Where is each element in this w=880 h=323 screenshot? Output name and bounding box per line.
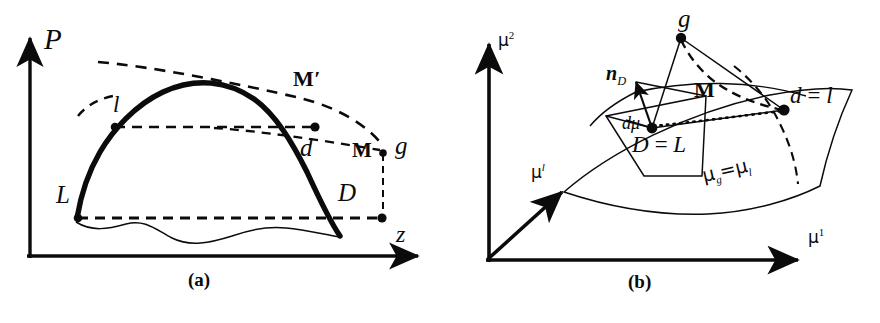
link-D-to-dl: [652, 110, 784, 128]
axis-label-mu1-base: μ: [808, 227, 819, 247]
link-g-to-D: [652, 38, 681, 128]
axis-label-mu-l-base: μ: [531, 162, 542, 182]
point-marker-d: [310, 122, 319, 131]
axis-label-mu1-sup: 1: [819, 226, 825, 238]
axis-label-mu2: μ2: [498, 30, 514, 49]
point-label-l: l: [113, 93, 119, 116]
axis-label-z: z: [396, 222, 405, 246]
panel-b: μ2 μ1 μl g D = L d = l nD dμ M μg=μl (b): [440, 0, 880, 323]
dashed-arc-near-l: [78, 96, 113, 116]
panel-a: P z L l d D g M′ M (a): [0, 0, 440, 323]
axis-label-mu2-sup: 2: [509, 29, 515, 41]
point-marker-L: [74, 214, 83, 223]
panel-a-graphics: [0, 0, 440, 323]
axis-label-mu1: μ1: [808, 227, 824, 246]
point-label-d-equals-l: d = l: [790, 84, 833, 107]
axis-mu-l: [488, 192, 562, 259]
annotation-label-m-prime: M′: [293, 68, 321, 90]
point-label-D: D: [338, 180, 356, 205]
point-label-g: g: [395, 133, 408, 158]
point-marker-g: [676, 33, 686, 43]
d-mu-vector-label: dμ: [622, 114, 640, 132]
figure-root: P z L l d D g M′ M (a): [0, 0, 880, 323]
point-marker-g: [379, 149, 387, 157]
lower-wavy-curve: [76, 222, 340, 243]
normal-vector-label: nD: [606, 63, 626, 87]
axis-label-mu2-base: μ: [498, 30, 509, 50]
point-label-d: d: [300, 135, 313, 160]
m-vector-label: M: [694, 79, 715, 101]
point-marker-l: [111, 123, 120, 132]
panel-b-caption: (b): [628, 272, 651, 291]
normal-vector-label-sub: D: [617, 74, 626, 88]
point-label-D-equals-L: D = L: [632, 133, 686, 156]
panel-a-caption: (a): [188, 270, 210, 289]
point-marker-d-equals-l: [778, 104, 789, 115]
point-label-g: g: [678, 6, 691, 31]
axis-label-mu-l: μl: [531, 162, 545, 181]
annotation-label-m: M: [352, 140, 372, 161]
axis-label-mu-l-sup: l: [542, 161, 545, 173]
point-label-L: L: [56, 182, 70, 207]
point-marker-D: [377, 213, 386, 222]
normal-vector-label-base: n: [606, 62, 617, 84]
axis-label-p: P: [44, 25, 62, 54]
